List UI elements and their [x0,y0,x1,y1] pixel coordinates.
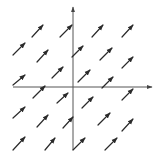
vector-arrow-icon [105,138,117,150]
vector-arrow-icon [122,57,133,68]
vector-arrow-icon [98,113,110,125]
vector-arrow-icon [13,137,25,150]
vector-arrow-icon [37,50,48,62]
vector-arrow-icon [72,46,83,57]
vector-arrow-icon [57,93,68,103]
vector-arrow-icon [82,97,93,108]
vector-arrow-icon [60,25,72,37]
vector-arrow-icon [63,117,73,128]
axes [13,7,152,150]
vector-arrow-icon [13,43,25,55]
vector-arrow-icon [32,25,43,37]
vector-arrow-icon [13,75,25,85]
vector-arrow-icon [78,70,90,82]
vector-arrow-icon [122,89,133,100]
vector-arrow-icon [122,25,133,37]
vector-arrow-icon [102,77,113,88]
vector-arrow-icon [37,115,48,127]
vector-arrow-icon [122,119,133,131]
vector-arrow-icon [92,25,103,37]
vector-arrow-icon [52,67,63,78]
vector-field-diagram [0,0,159,158]
vector-arrow-icon [13,107,25,118]
vector-arrow-icon [73,138,85,150]
vector-arrow-icon [100,48,112,60]
vector-arrow-icon [45,138,55,150]
vector-arrow-icon [33,86,45,98]
